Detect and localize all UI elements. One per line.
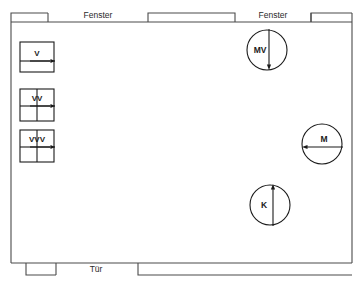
top-wall-outer-center [148, 13, 235, 22]
window-left-label: Fenster [84, 10, 113, 20]
equipment-box-v[interactable]: V [20, 42, 55, 72]
floor-plan-canvas: Fenster Fenster Tür V VV VV [0, 0, 360, 285]
door-label: Tür [90, 264, 103, 274]
circle-k-label: K [261, 200, 268, 210]
equipment-circle-k[interactable]: K [250, 184, 290, 226]
circle-m-outline [302, 124, 342, 164]
box-v-label: V [34, 49, 40, 58]
box-vvv-label: VVV [29, 135, 46, 144]
bottom-wall-outer-left [26, 263, 56, 275]
room-walls [11, 13, 352, 275]
equipment-circle-mv[interactable]: MV [247, 29, 287, 70]
top-wall-outer-left [11, 13, 48, 22]
equipment-circle-m[interactable]: M [302, 124, 343, 164]
circle-k-outline [250, 185, 290, 225]
circle-mv-label: MV [254, 45, 267, 55]
equipment-box-vvv[interactable]: VVV [20, 130, 55, 162]
box-vv-label: VV [32, 94, 43, 103]
window-right-label: Fenster [259, 10, 288, 20]
equipment-box-vv[interactable]: VV [20, 89, 55, 121]
floor-plan-diagram: Fenster Fenster Tür V VV VV [0, 0, 360, 285]
bottom-wall-outer-right [138, 263, 352, 275]
top-wall-outer-right [311, 13, 352, 22]
circle-m-label: M [320, 134, 327, 144]
